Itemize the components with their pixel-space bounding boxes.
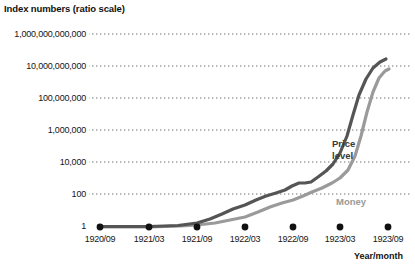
xtick-label-1921-09: 1921/09 <box>182 234 212 244</box>
chart-container: Index numbers (ratio scale) 1,000,000,00… <box>0 0 415 276</box>
xtick-label-1920-09: 1920/09 <box>85 234 115 244</box>
series-label-money: Money <box>336 196 366 208</box>
xtick-label-1923-09: 1923/09 <box>373 234 403 244</box>
gridline-1e12 <box>89 33 411 34</box>
xtick-label-1921-03: 1921/03 <box>134 234 164 244</box>
xtick-marker <box>290 224 297 231</box>
series-label-price-level: Price level <box>332 138 355 161</box>
xtick-marker <box>337 224 344 231</box>
xtick-marker <box>194 224 201 231</box>
gridlines <box>89 33 411 194</box>
xtick-label-1922-09: 1922/09 <box>278 234 308 244</box>
xtick-label-1922-03: 1922/03 <box>230 234 260 244</box>
x-axis-caption: Year/month <box>354 251 403 261</box>
xtick-marker <box>385 224 392 231</box>
xtick-marker <box>242 224 249 231</box>
xtick-marker <box>146 224 153 231</box>
xtick-label-1923-03: 1923/03 <box>325 234 355 244</box>
gridline-1e8 <box>89 97 411 98</box>
series-label-price-level-line1: Price <box>332 138 355 149</box>
gridline-1e10 <box>89 65 411 66</box>
gridline-1e4 <box>89 161 411 162</box>
xtick-marker <box>97 224 104 231</box>
series-label-price-level-line2: level <box>332 150 353 161</box>
gridline-1e2 <box>89 193 411 194</box>
